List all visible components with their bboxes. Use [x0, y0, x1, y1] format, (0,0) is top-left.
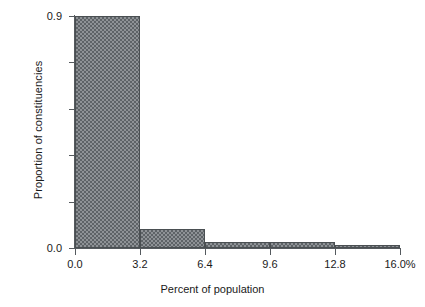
- x-tick-mark-3.2: [140, 249, 141, 255]
- plot-area: 0.0 3.2 6.4 9.6 12.8 16.0%: [75, 16, 400, 248]
- x-axis-title: Percent of population: [0, 283, 425, 295]
- y-tick-label-0.0: 0.0: [28, 243, 62, 254]
- histogram-bar: [140, 229, 205, 248]
- x-tick-label-16.0: 16.0%: [370, 259, 425, 270]
- x-tick-mark-9.6: [270, 249, 271, 255]
- histogram-bar: [75, 16, 140, 248]
- histogram-bar: [205, 242, 270, 248]
- x-tick-label-3.2: 3.2: [115, 259, 165, 270]
- histogram-bar: [270, 242, 335, 248]
- x-tick-mark-16.0: [400, 249, 401, 255]
- x-tick-label-6.4: 6.4: [180, 259, 230, 270]
- x-tick-mark-0.0: [75, 249, 76, 255]
- y-tick-label-0.9: 0.9: [28, 11, 62, 22]
- x-tick-label-12.8: 12.8: [310, 259, 360, 270]
- x-tick-mark-12.8: [335, 249, 336, 255]
- histogram-bar: [335, 245, 400, 248]
- x-tick-label-0.0: 0.0: [50, 259, 100, 270]
- histogram-figure: Proportion of constituencies 0.9 0.0 0.0…: [0, 0, 425, 307]
- x-tick-label-9.6: 9.6: [245, 259, 295, 270]
- x-tick-mark-6.4: [205, 249, 206, 255]
- x-axis-spine: [74, 248, 401, 249]
